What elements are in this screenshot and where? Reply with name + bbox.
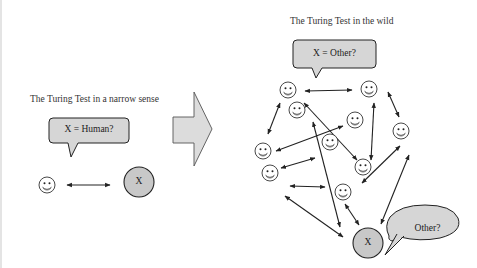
left-bubble-text: X = Human? xyxy=(49,124,129,134)
network-faces xyxy=(255,81,409,200)
right-x-label: X xyxy=(353,237,383,247)
right-speech-bubble xyxy=(293,40,376,78)
left-human-face-icon xyxy=(39,177,55,193)
transition-arrow-icon xyxy=(173,92,212,166)
left-panel-title: The Turing Test in a narrow sense xyxy=(30,94,159,104)
left-x-label: X xyxy=(124,176,154,186)
reply-bubble-text: Other? xyxy=(405,223,450,233)
right-panel-title: The Turing Test in the wild xyxy=(290,16,393,26)
right-bubble-text: X = Other? xyxy=(293,48,376,58)
